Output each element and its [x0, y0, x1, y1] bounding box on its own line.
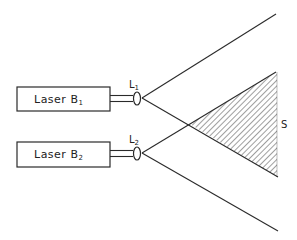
- laser-b1: Laser B1: [17, 87, 133, 111]
- laser-overlap-diagram: Laser B1 L1 Laser B2 L2 S: [0, 0, 297, 240]
- laser-b1-label: Laser B1: [34, 93, 83, 107]
- overlap-region-label: S: [281, 119, 287, 130]
- lens-l1-label: L1: [129, 79, 139, 92]
- lens-l1-icon: [134, 92, 141, 105]
- lens-l2-label: L2: [129, 134, 139, 147]
- laser-b2-label: Laser B2: [34, 148, 83, 162]
- overlap-region: [185, 68, 280, 180]
- overlap-hatching: [185, 68, 280, 180]
- laser-b2: Laser B2: [17, 142, 133, 167]
- lens-l2-icon: [134, 147, 141, 160]
